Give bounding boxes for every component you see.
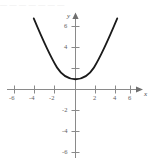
x-axis-arrowhead [136,86,143,92]
y-tick-label-neg6: -6 [62,149,67,156]
x-tick-label-neg2: -2 [49,95,54,102]
x-axis-label: x [144,91,147,98]
y-tick-label-6: 6 [64,23,67,30]
y-axis-label: y [67,13,70,20]
x-tick-label-neg6: -6 [9,95,14,102]
parabola-graph-figure: — — — — — — — [0,0,153,163]
coordinate-plane-svg [0,0,153,163]
x-tick-label-4: 4 [113,95,116,102]
y-tick-label-neg2: -2 [62,107,67,114]
x-tick-label-2: 2 [93,95,96,102]
y-tick-label-neg4: -4 [62,128,67,135]
x-tick-label-6: 6 [128,95,131,102]
y-axis-arrowhead [72,13,78,20]
y-tick-label-4: 4 [64,44,67,51]
x-tick-label-neg4: -4 [29,95,34,102]
